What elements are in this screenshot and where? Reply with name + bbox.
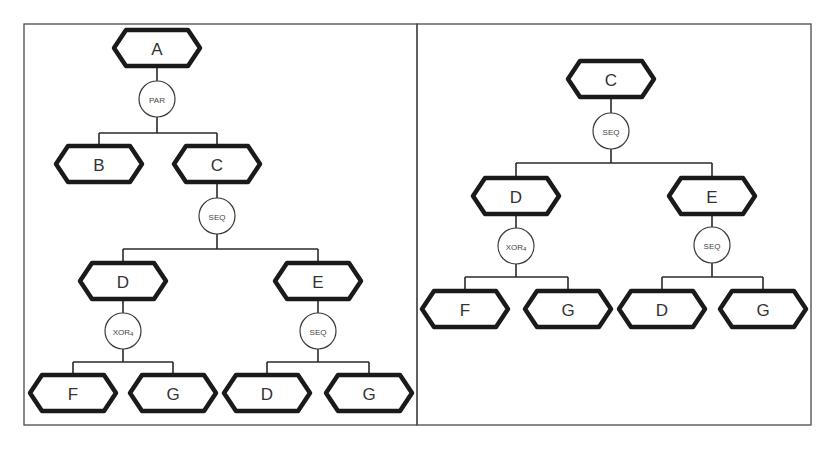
activity-label: E <box>312 273 323 292</box>
activity-node-d: D <box>80 263 166 299</box>
activity-node-d: D <box>619 291 705 327</box>
activity-label: E <box>706 188 717 207</box>
panel-frames <box>24 24 811 425</box>
operator-label: SEQ <box>209 212 226 221</box>
activity-node-c: C <box>174 146 260 182</box>
activity-node-g: G <box>130 375 216 411</box>
activity-node-e: E <box>275 263 361 299</box>
activity-label: B <box>93 156 104 175</box>
tree-nodes: APARBCSEQDEXOR4SEQFGDGCSEQDEXOR4SEQFGDG <box>30 30 806 411</box>
operator-node-par: PAR <box>139 81 175 117</box>
activity-node-e: E <box>669 178 755 214</box>
operator-node-xor: XOR4 <box>105 313 141 349</box>
activity-node-g: G <box>525 291 611 327</box>
activity-node-b: B <box>56 146 142 182</box>
activity-label: A <box>151 40 163 59</box>
operator-label: PAR <box>149 95 165 104</box>
activity-node-c: C <box>568 61 654 97</box>
activity-label: G <box>166 385 179 404</box>
operator-label: SEQ <box>704 241 721 250</box>
activity-label: F <box>460 301 470 320</box>
operator-node-xor: XOR4 <box>498 228 534 264</box>
operator-node-seq: SEQ <box>199 198 235 234</box>
operator-label: SEQ <box>603 127 620 136</box>
activity-node-d: D <box>224 375 310 411</box>
activity-label: D <box>117 273 129 292</box>
activity-label: D <box>261 385 273 404</box>
operator-node-seq: SEQ <box>593 113 629 149</box>
activity-label: G <box>756 301 769 320</box>
operator-node-seq: SEQ <box>694 227 730 263</box>
activity-node-g: G <box>326 375 412 411</box>
activity-label: G <box>561 301 574 320</box>
activity-label: D <box>656 301 668 320</box>
activity-label: D <box>510 188 522 207</box>
process-tree-diagram: APARBCSEQDEXOR4SEQFGDGCSEQDEXOR4SEQFGDG <box>0 0 832 449</box>
activity-node-a: A <box>114 30 200 66</box>
activity-label: F <box>68 385 78 404</box>
activity-label: C <box>211 156 223 175</box>
activity-node-f: F <box>30 375 116 411</box>
operator-label: SEQ <box>310 327 327 336</box>
operator-node-seq: SEQ <box>300 313 336 349</box>
activity-label: C <box>605 71 617 90</box>
activity-node-g: G <box>720 291 806 327</box>
activity-node-d: D <box>473 178 559 214</box>
activity-node-f: F <box>422 291 508 327</box>
activity-label: G <box>362 385 375 404</box>
